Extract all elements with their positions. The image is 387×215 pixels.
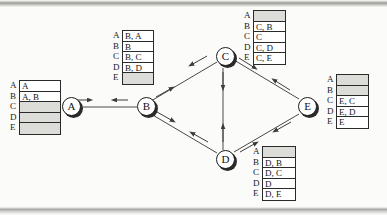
row-label: C	[10, 101, 17, 112]
table-cell: E, D	[337, 107, 368, 118]
table-a-cells: A A, B	[19, 80, 61, 135]
table-cell	[337, 86, 368, 97]
row-label: D	[244, 42, 251, 53]
row-label: B	[10, 91, 17, 102]
table-d-cells: D, B D, C D D, E	[262, 146, 296, 201]
table-cell: D, B	[263, 158, 295, 169]
row-label: A	[244, 10, 251, 21]
row-label: B	[253, 157, 260, 168]
table-e-cells: E, C E, D E	[336, 74, 369, 129]
table-cell: E, C	[337, 96, 368, 107]
table-cell: C, B	[254, 22, 285, 33]
table-cell: B, C	[123, 52, 153, 63]
table-cell: D, E	[263, 189, 295, 200]
row-label: C	[253, 167, 260, 178]
table-d: A B C D E D, B D, C D D, E	[253, 146, 296, 201]
edge-b-d	[151, 112, 217, 153]
row-label: A	[253, 146, 260, 157]
row-label: C	[327, 95, 334, 106]
row-label: E	[253, 188, 260, 199]
table-e: A B C D E E, C E, D E	[327, 74, 369, 129]
table-cell: D, C	[263, 168, 295, 179]
table-cell	[337, 75, 368, 86]
table-cell: C	[254, 32, 285, 43]
row-label: A	[327, 74, 334, 85]
row-label: D	[327, 106, 334, 117]
table-cell: C, E	[254, 53, 285, 64]
table-cell	[20, 113, 60, 124]
row-label: E	[10, 122, 17, 133]
table-c-row-labels: A B C D E	[244, 10, 251, 63]
table-cell	[20, 123, 60, 134]
node-c-label: C	[216, 47, 235, 66]
node-e-label: E	[298, 97, 317, 116]
table-cell: B	[123, 42, 153, 53]
table-cell	[123, 73, 153, 84]
row-label: A	[10, 80, 17, 91]
table-cell	[254, 11, 285, 22]
edge-a-b	[76, 100, 137, 107]
row-label: B	[327, 85, 334, 96]
table-b-row-labels: A B C D E	[113, 30, 120, 83]
table-a-row-labels: A B C D E	[10, 80, 17, 133]
table-e-row-labels: A B C D E	[327, 74, 334, 127]
table-cell: E	[337, 117, 368, 128]
table-cell: A	[20, 81, 60, 92]
node-c[interactable]: C	[216, 47, 237, 68]
node-b-label: B	[137, 97, 156, 116]
diagram-canvas: A B C D E A B C D E A A, B A	[0, 0, 387, 215]
edge-b-c	[151, 56, 217, 101]
node-d-label: D	[216, 150, 235, 169]
table-cell	[263, 147, 295, 158]
node-b[interactable]: B	[137, 97, 158, 118]
row-label: E	[244, 52, 251, 63]
row-label: D	[113, 62, 120, 73]
node-e[interactable]: E	[298, 97, 319, 118]
row-label: D	[253, 178, 260, 189]
table-b-cells: B, A B B, C B, D	[122, 30, 154, 85]
table-cell: C, D	[254, 43, 285, 54]
row-label: C	[244, 31, 251, 42]
table-cell: B, A	[123, 31, 153, 42]
table-b: A B C D E B, A B B, C B, D	[113, 30, 154, 85]
table-c-cells: C, B C C, D C, E	[253, 10, 286, 65]
node-a-label: A	[62, 97, 81, 116]
row-label: E	[327, 116, 334, 127]
row-label: B	[244, 21, 251, 32]
row-label: B	[113, 41, 120, 52]
table-c: A B C D E C, B C C, D C, E	[244, 10, 286, 65]
table-a: A B C D E A A, B	[10, 80, 61, 135]
table-cell: A, B	[20, 92, 60, 103]
table-cell: B, D	[123, 63, 153, 74]
row-label: A	[113, 30, 120, 41]
node-d[interactable]: D	[216, 150, 237, 171]
row-label: C	[113, 51, 120, 62]
node-a[interactable]: A	[62, 97, 83, 118]
row-label: E	[113, 72, 120, 83]
table-cell	[20, 102, 60, 113]
table-d-row-labels: A B C D E	[253, 146, 260, 199]
row-label: D	[10, 112, 17, 123]
table-cell: D	[263, 179, 295, 190]
